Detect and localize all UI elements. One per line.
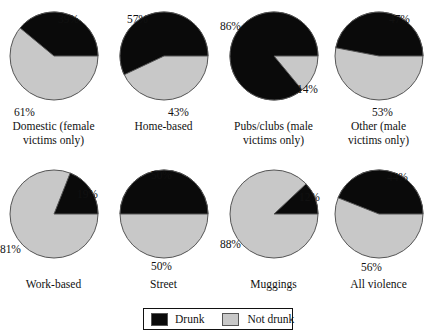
legend-entry-drunk: Drunk xyxy=(151,309,204,329)
pie-value-label-drunk: 12% xyxy=(299,191,320,203)
pie-wrapper: 12%88% xyxy=(220,168,327,260)
pie-caption: Home-based xyxy=(110,120,217,134)
pie-wrapper: 86%14% xyxy=(220,10,327,102)
pie-value-label-drunk: 44% xyxy=(387,171,408,183)
pie-graphic xyxy=(333,10,425,102)
pie-value-label-not-drunk: 50% xyxy=(151,260,172,272)
pie-caption: Other (male victims only) xyxy=(325,120,428,147)
pie-caption: All violence xyxy=(325,278,428,292)
pie-value-label-not-drunk: 61% xyxy=(14,106,35,118)
pie-wrapper: 47%53% xyxy=(325,10,428,102)
pie-graphic xyxy=(118,168,210,260)
pie-value-label-not-drunk: 14% xyxy=(297,83,318,95)
pie-value-label-drunk: 39% xyxy=(58,13,79,25)
legend-swatch-drunk xyxy=(151,313,168,326)
pie-value-label-drunk: 47% xyxy=(389,13,410,25)
pie-wrapper: 44%56% xyxy=(325,168,428,260)
pie-graphic xyxy=(8,168,100,260)
pie-panel: 86%14%Pubs/clubs (male victims only) xyxy=(220,10,327,102)
pie-caption: Work-based xyxy=(0,278,107,292)
legend-label-not-drunk: Not drunk xyxy=(247,313,294,326)
legend-swatch-not-drunk xyxy=(222,313,239,326)
pie-caption: Pubs/clubs (male victims only) xyxy=(220,120,327,147)
pie-panel: 39%61%Domestic (female victims only) xyxy=(0,10,107,102)
pie-panel: 47%53%Other (male victims only) xyxy=(325,10,428,102)
pie-value-label-drunk: 86% xyxy=(220,20,241,32)
pie-value-label-not-drunk: 88% xyxy=(220,238,241,250)
chart-legend: Drunk Not drunk xyxy=(143,308,293,330)
pie-panel: 12%88%Muggings xyxy=(220,168,327,260)
pie-wrapper: 19%81% xyxy=(0,168,107,260)
pie-wrapper: 50%50% xyxy=(110,168,217,260)
pie-value-label-not-drunk: 43% xyxy=(168,106,189,118)
pie-wrapper: 39%61% xyxy=(0,10,107,102)
pie-wrapper: 57%43% xyxy=(110,10,217,102)
pie-value-label-not-drunk: 81% xyxy=(0,243,21,255)
legend-label-drunk: Drunk xyxy=(175,313,204,326)
pie-caption: Street xyxy=(110,278,217,292)
pie-panel: 57%43%Home-based xyxy=(110,10,217,102)
pie-value-label-not-drunk: 56% xyxy=(361,261,382,273)
pie-value-label-not-drunk: 53% xyxy=(372,106,393,118)
pie-panel: 50%50%Street xyxy=(110,168,217,260)
pie-value-label-drunk: 19% xyxy=(77,188,98,200)
pie-panel: 19%81%Work-based xyxy=(0,168,107,260)
pie-caption: Muggings xyxy=(220,278,327,292)
pie-value-label-drunk: 57% xyxy=(127,13,148,25)
pie-value-label-drunk: 50% xyxy=(151,169,172,181)
pie-graphic xyxy=(8,10,100,102)
legend-entry-not-drunk: Not drunk xyxy=(222,309,294,329)
pie-panel: 44%56%All violence xyxy=(325,168,428,260)
pie-graphic xyxy=(333,168,425,260)
pie-chart-figure: 39%61%Domestic (female victims only)57%4… xyxy=(0,0,428,335)
pie-caption: Domestic (female victims only) xyxy=(0,120,107,147)
pie-graphic xyxy=(228,168,320,260)
